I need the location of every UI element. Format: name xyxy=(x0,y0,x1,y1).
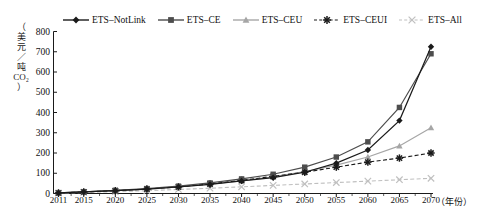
square-marker xyxy=(397,105,402,110)
series-line-etsnotlink xyxy=(59,47,432,193)
chart-container: （美元／吨CO₂） 0100200300400500600700800 2011… xyxy=(0,0,478,221)
diamond-marker xyxy=(428,43,434,49)
data-point-marker xyxy=(397,105,402,110)
data-point-marker xyxy=(428,43,434,49)
triangle-marker xyxy=(428,124,434,130)
data-point-marker xyxy=(396,177,402,183)
data-point-marker xyxy=(427,149,434,156)
data-point-marker xyxy=(365,139,370,144)
data-point-marker xyxy=(428,175,434,181)
series-line-etsce xyxy=(59,54,432,193)
data-point-marker xyxy=(334,154,339,159)
data-point-marker xyxy=(428,124,434,130)
data-point-marker xyxy=(396,154,403,161)
square-marker xyxy=(334,154,339,159)
square-marker xyxy=(365,139,370,144)
plot-area xyxy=(0,0,478,221)
data-point-marker xyxy=(396,143,402,149)
triangle-marker xyxy=(396,143,402,149)
series-line-etsceu xyxy=(59,128,432,193)
data-point-marker xyxy=(364,158,371,165)
